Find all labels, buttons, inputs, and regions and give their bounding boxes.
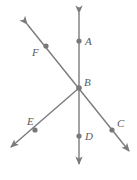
point-dot-A (76, 38, 81, 43)
point-label-D: D (85, 131, 93, 142)
point-label-A: A (85, 36, 92, 47)
geometry-figure: A B C D E F (0, 0, 137, 180)
points-group (32, 38, 114, 138)
point-label-C: C (117, 118, 124, 129)
figure-canvas (0, 0, 137, 180)
point-dot-B (76, 85, 82, 91)
point-label-E: E (27, 116, 34, 127)
point-label-B: B (84, 77, 91, 88)
point-label-F: F (32, 47, 39, 58)
point-dot-C (109, 127, 114, 132)
lines-group (11, 13, 129, 164)
point-dot-D (76, 133, 81, 138)
point-dot-F (43, 43, 48, 48)
point-dot-E (32, 127, 37, 132)
ray-from-B-through-E (11, 88, 79, 147)
